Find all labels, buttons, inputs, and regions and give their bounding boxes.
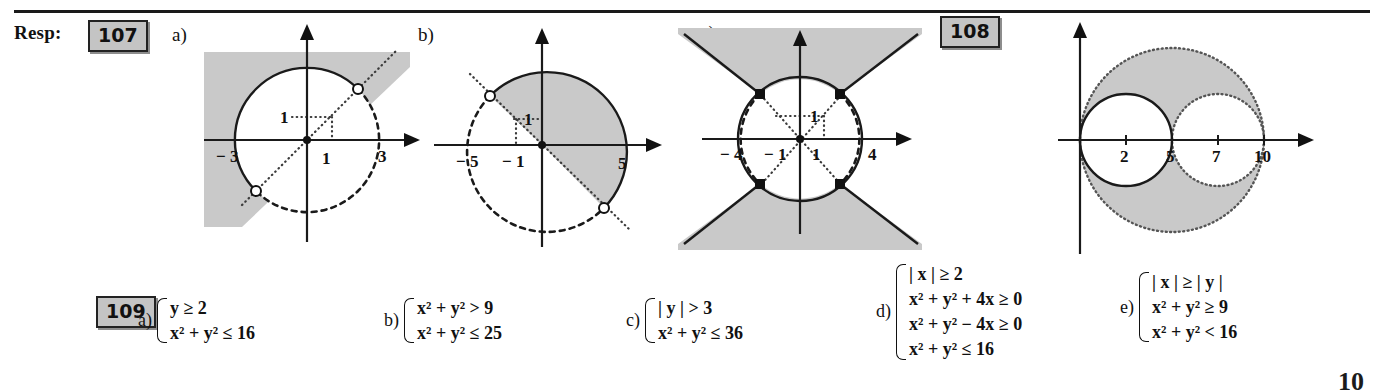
tick-label-1-107c: 1: [812, 145, 821, 164]
figure-107b-svg: − 5 − 1 5 1: [418, 12, 670, 260]
brace-glyph-e: [1139, 272, 1149, 342]
system-e: e) | x | ≥ | y | x² + y² ≥ 9 x² + y² < 1…: [1120, 272, 1237, 342]
tick-label-4-107c: 4: [868, 145, 877, 164]
system-brace-c: | y | > 3 x² + y² ≤ 36: [645, 298, 743, 343]
equation: x² + y² ≤ 16: [909, 339, 1022, 359]
system-a: a) y ≥ 2 x² + y² ≤ 16: [138, 298, 255, 343]
y-axis-arrow-107a: [300, 24, 314, 40]
system-letter-b: b): [384, 310, 399, 331]
equation: x² + y² ≤ 36: [658, 323, 743, 343]
y-axis-arrow-107b: [535, 28, 549, 44]
tick-label-y1-107c: 1: [810, 107, 819, 126]
tick-label-neg5-107b: − 5: [456, 152, 478, 171]
figure-107c: − 4 − 1 1 4 1: [672, 12, 928, 260]
brace-glyph-c: [645, 298, 655, 343]
system-brace-d: | x | ≥ 2 x² + y² + 4x ≥ 0 x² + y² − 4x …: [896, 264, 1022, 360]
system-brace-e: | x | ≥ | y | x² + y² ≥ 9 x² + y² < 16: [1139, 272, 1237, 342]
tick-label-neg1-107c: − 1: [764, 145, 786, 164]
answer-page: Resp: 107 a) b) c): [0, 0, 1374, 391]
marked-point-ul-107c: [755, 89, 765, 99]
tick-label-3-107a: 3: [378, 147, 387, 166]
tick-label-x1-107a: 1: [322, 149, 331, 168]
open-point-upper-107a: [353, 84, 363, 94]
system-letter-c: c): [626, 310, 640, 331]
tick-label-2-108: 2: [1120, 147, 1129, 166]
tick-label-neg1-107b: − 1: [502, 152, 524, 171]
x-axis-arrow-107c: [896, 132, 912, 146]
figure-107a-svg: − 3 3 1 1: [182, 12, 432, 260]
resp-label: Resp:: [14, 22, 61, 44]
x-axis-arrow-107b: [646, 138, 662, 152]
brace-glyph-b: [404, 298, 414, 343]
page-number: 10: [1338, 367, 1364, 391]
equation: x² + y² > 9: [417, 298, 502, 318]
equation: | x | ≥ 2: [909, 264, 1022, 284]
system-equations-a: y ≥ 2 x² + y² ≤ 16: [170, 298, 255, 343]
tick-label-10-108: 10: [1254, 147, 1271, 166]
open-point-upper-107b: [485, 91, 495, 101]
system-letter-d: d): [876, 301, 891, 322]
marked-point-ur-107c: [835, 89, 845, 99]
system-brace-a: y ≥ 2 x² + y² ≤ 16: [157, 298, 255, 343]
equation: | x | ≥ | y |: [1152, 272, 1237, 292]
tick-label-y1-107b: 1: [524, 110, 533, 129]
marked-point-lr-107c: [835, 179, 845, 189]
system-letter-a: a): [138, 310, 152, 331]
tick-label-neg4-107c: − 4: [720, 145, 743, 164]
shaded-sector-107b: [490, 72, 627, 208]
figure-107a: − 3 3 1 1: [182, 12, 432, 260]
marked-point-ll-107c: [755, 179, 765, 189]
equation: x² + y² ≤ 16: [170, 323, 255, 343]
equation: x² + y² ≥ 9: [1152, 297, 1237, 317]
tick-label-5-108: 5: [1166, 147, 1175, 166]
tick-label-y1-107a: 1: [280, 108, 289, 127]
tick-label-7-108: 7: [1212, 147, 1221, 166]
origin-point-107b: [538, 141, 546, 149]
figure-107c-svg: − 4 − 1 1 4 1: [672, 12, 928, 260]
equation: x² + y² + 4x ≥ 0: [909, 289, 1022, 309]
origin-point-107c: [796, 135, 804, 143]
open-point-lower-107a: [251, 186, 261, 196]
system-letter-e: e): [1120, 297, 1134, 318]
equation: x² + y² < 16: [1152, 322, 1237, 342]
system-equations-b: x² + y² > 9 x² + y² ≤ 25: [417, 298, 502, 343]
figure-108: 2 5 7 10: [1030, 12, 1360, 260]
system-equations-d: | x | ≥ 2 x² + y² + 4x ≥ 0 x² + y² − 4x …: [909, 264, 1022, 360]
open-point-lower-107b: [599, 203, 609, 213]
equation: x² + y² ≤ 25: [417, 323, 502, 343]
figure-107b: − 5 − 1 5 1: [418, 12, 670, 260]
origin-point-107a: [303, 136, 311, 144]
system-c: c) | y | > 3 x² + y² ≤ 36: [626, 298, 743, 343]
figure-108-svg: 2 5 7 10: [1030, 12, 1360, 260]
equation: y ≥ 2: [170, 298, 255, 318]
system-equations-c: | y | > 3 x² + y² ≤ 36: [658, 298, 743, 343]
system-equations-e: | x | ≥ | y | x² + y² ≥ 9 x² + y² < 16: [1152, 272, 1237, 342]
tick-label-5-107b: 5: [618, 154, 627, 173]
tick-label-neg3-107a: − 3: [216, 147, 238, 166]
system-b: b) x² + y² > 9 x² + y² ≤ 25: [384, 298, 502, 343]
equation: | y | > 3: [658, 298, 743, 318]
brace-glyph-a: [157, 298, 167, 343]
system-brace-b: x² + y² > 9 x² + y² ≤ 25: [404, 298, 502, 343]
exercise-badge-108: 108: [940, 16, 1000, 48]
brace-glyph-d: [896, 264, 906, 360]
equation: x² + y² − 4x ≥ 0: [909, 314, 1022, 334]
exercise-badge-107: 107: [88, 20, 148, 52]
system-d: d) | x | ≥ 2 x² + y² + 4x ≥ 0 x² + y² − …: [876, 264, 1022, 360]
